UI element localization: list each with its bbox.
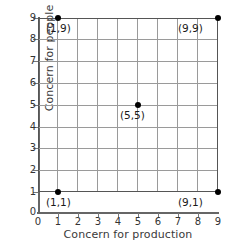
data-point[interactable] — [215, 189, 221, 195]
y-tick-label: 9 — [16, 13, 36, 23]
data-point-label: (9,1) — [178, 197, 203, 208]
gridline-horizontal — [38, 127, 218, 128]
x-tick-label: 0 — [28, 216, 48, 228]
x-tick-label: 2 — [68, 216, 88, 228]
x-tick-label: 4 — [108, 216, 128, 228]
x-tick-label: 6 — [148, 216, 168, 228]
x-tick-label: 3 — [88, 216, 108, 228]
data-point-label: (1,1) — [46, 197, 71, 208]
y-tick-label: 3 — [16, 143, 36, 153]
y-tick-label: 6 — [16, 78, 36, 88]
x-tick-label: 8 — [188, 216, 208, 228]
plot-frame-top — [38, 18, 218, 19]
data-point-label: (1,9) — [46, 23, 71, 34]
x-axis-title: Concern for production — [38, 228, 218, 241]
y-tick-label: 4 — [16, 122, 36, 132]
data-point[interactable] — [55, 189, 61, 195]
gridline-horizontal — [38, 148, 218, 149]
y-tick-label: 1 — [16, 187, 36, 197]
x-tick-label: 5 — [128, 216, 148, 228]
y-tick-label: 5 — [16, 100, 36, 110]
y-tick-label: 2 — [16, 165, 36, 175]
plot-frame-left — [38, 18, 39, 192]
gridline-horizontal — [38, 39, 218, 40]
x-tick-label: 9 — [208, 216, 228, 228]
data-point[interactable] — [215, 15, 221, 21]
data-point[interactable] — [135, 102, 141, 108]
x-axis-spine — [37, 212, 219, 214]
plot-frame-right — [217, 18, 218, 192]
x-tick-label: 7 — [168, 216, 188, 228]
y-tick-label: 7 — [16, 56, 36, 66]
plot-area: (1,9) (9,9) (5,5) (1,1) (9,1) — [38, 18, 218, 192]
data-point-label: (5,5) — [120, 110, 145, 121]
gridline-horizontal — [38, 105, 218, 106]
gridline-horizontal — [38, 170, 218, 171]
data-point-label: (9,9) — [178, 23, 203, 34]
data-point[interactable] — [55, 15, 61, 21]
gridline-horizontal — [38, 61, 218, 62]
y-tick-label: 8 — [16, 34, 36, 44]
gridline-horizontal — [38, 83, 218, 84]
plot-frame-bottom — [38, 191, 218, 192]
grid-scatter-chart: Concern for people Concern for productio… — [0, 0, 242, 247]
x-tick-label: 1 — [48, 216, 68, 228]
